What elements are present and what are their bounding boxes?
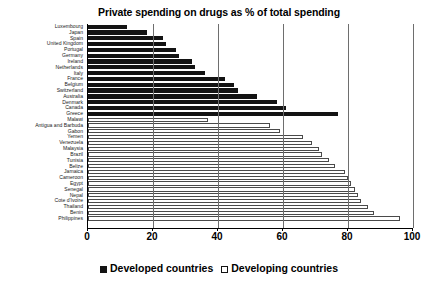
chart-legend: Developed countriesDeveloping countries <box>0 262 438 274</box>
x-tick-label-60: 60 <box>276 231 287 242</box>
bar-belize <box>88 164 335 168</box>
gridline-100 <box>413 24 414 228</box>
bar-cote-d-ivoire <box>88 199 361 203</box>
x-tick-label-80: 80 <box>341 231 352 242</box>
x-tick-label-20: 20 <box>146 231 157 242</box>
bar-united-kingdom <box>88 42 166 46</box>
x-tick-label-0: 0 <box>84 231 90 242</box>
bar-thailand <box>88 205 368 209</box>
bar-luxembourg <box>88 25 127 29</box>
bar-france <box>88 77 225 81</box>
bar-malawi <box>88 118 208 122</box>
bar-canada <box>88 106 286 110</box>
gridline-20 <box>153 24 154 228</box>
gridline-60 <box>283 24 284 228</box>
filled-square-icon <box>100 266 107 273</box>
bar-tunisia <box>88 158 329 162</box>
plot-area <box>87 24 413 229</box>
bar-senegal <box>88 187 355 191</box>
bar-denmark <box>88 100 277 104</box>
bar-venezuela <box>88 141 312 145</box>
bar-netherlands <box>88 65 195 69</box>
bar-philippines <box>88 216 400 220</box>
bar-brazil <box>88 152 322 156</box>
bar-jamaica <box>88 170 345 174</box>
bar-italy <box>88 71 205 75</box>
chart-container: Private spending on drugs as % of total … <box>0 0 438 292</box>
bar-series <box>88 24 413 228</box>
bar-greece <box>88 112 338 116</box>
bar-belgium <box>88 83 234 87</box>
bar-yemen <box>88 135 303 139</box>
bar-japan <box>88 30 147 34</box>
y-axis-label-philippines: Philippines <box>0 216 85 222</box>
x-tick-label-100: 100 <box>404 231 421 242</box>
gridline-40 <box>218 24 219 228</box>
legend-item: Developing countries <box>221 262 338 274</box>
bar-germany <box>88 54 179 58</box>
x-tick-label-40: 40 <box>211 231 222 242</box>
gridline-80 <box>348 24 349 228</box>
legend-label: Developed countries <box>110 262 213 274</box>
bar-switzerland <box>88 88 238 92</box>
open-square-icon <box>221 266 228 273</box>
bar-ireland <box>88 59 192 63</box>
y-axis-category-labels: LuxembourgJapanSpainUnited KingdomPortug… <box>0 24 85 228</box>
legend-label: Developing countries <box>231 262 338 274</box>
bar-nepal <box>88 193 358 197</box>
legend-item: Developed countries <box>100 262 213 274</box>
bar-egypt <box>88 181 351 185</box>
chart-title: Private spending on drugs as % of total … <box>0 6 438 18</box>
bar-antigua-and-barbuda <box>88 123 270 127</box>
bar-row <box>88 216 413 222</box>
bar-spain <box>88 36 163 40</box>
bar-malaysia <box>88 147 319 151</box>
bar-gabon <box>88 129 280 133</box>
bar-australia <box>88 94 257 98</box>
bar-portugal <box>88 48 176 52</box>
bar-benin <box>88 211 374 215</box>
